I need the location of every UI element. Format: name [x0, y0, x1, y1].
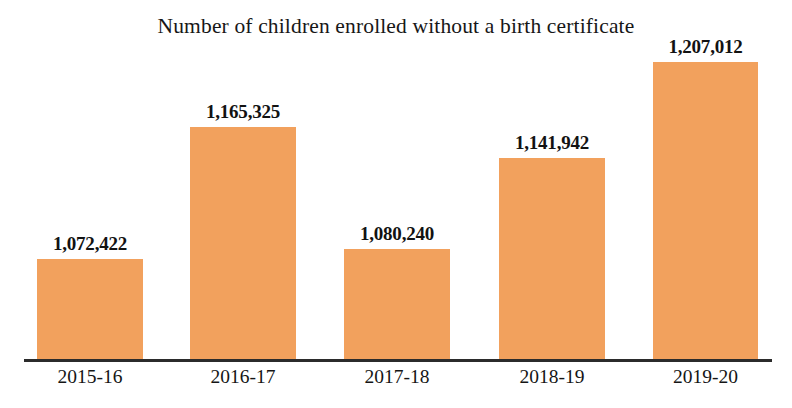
x-axis-label-2016-17: 2016-17	[168, 366, 318, 388]
bar-value-label-2015-16: 1,072,422	[15, 233, 165, 255]
bar-value-label-2016-17: 1,165,325	[168, 101, 318, 123]
x-axis-label-2019-20: 2019-20	[631, 366, 780, 388]
bar-2018-19	[499, 158, 605, 360]
x-axis-line	[24, 359, 772, 362]
bar-chart: Number of children enrolled without a bi…	[0, 0, 792, 408]
bar-value-label-2019-20: 1,207,012	[631, 36, 780, 58]
bar-value-label-2017-18: 1,080,240	[322, 223, 472, 245]
bar-2019-20	[653, 62, 758, 360]
x-axis-label-2018-19: 2018-19	[477, 366, 627, 388]
x-axis-label-2015-16: 2015-16	[15, 366, 165, 388]
bar-2015-16	[37, 259, 143, 360]
plot-area: 1,072,4222015-161,165,3252016-171,080,24…	[0, 0, 792, 408]
bar-2017-18	[344, 249, 450, 360]
bar-value-label-2018-19: 1,141,942	[477, 132, 627, 154]
x-axis-label-2017-18: 2017-18	[322, 366, 472, 388]
bar-2016-17	[190, 127, 296, 360]
